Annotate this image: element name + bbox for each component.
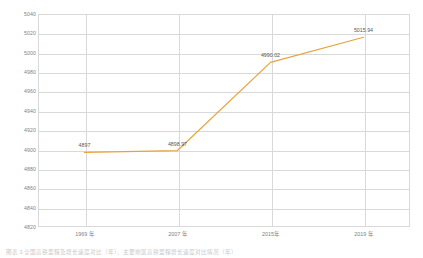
series-layer — [38, 14, 410, 227]
chart-caption: 图表 3 全国高铁里程及增长速度对比（年）、主要地区高铁里程增长速度对比情况（年… — [6, 249, 421, 256]
x-axis-tick-label: 2015年 — [241, 230, 301, 238]
y-axis-tick-label: 5020 — [2, 30, 36, 36]
y-axis-tick-label: 5000 — [2, 50, 36, 56]
y-axis-tick-label: 4980 — [2, 69, 36, 75]
y-axis-tick-label: 4880 — [2, 166, 36, 172]
y-axis-tick-label: 4820 — [2, 224, 36, 230]
x-axis-labels: 1969 年2007 年2015年2019 年 — [38, 230, 410, 242]
y-axis-tick-label: 4860 — [2, 185, 36, 191]
series-line-0 — [85, 37, 364, 152]
line-chart: 5040502050004980496049404920490048804860… — [0, 0, 423, 258]
y-axis-tick-label: 4960 — [2, 88, 36, 94]
data-point-label: 4898.97 — [168, 141, 187, 148]
y-axis-tick-label: 4900 — [2, 147, 36, 153]
x-axis-tick-label: 2019 年 — [334, 230, 394, 238]
y-axis-tick-label: 4920 — [2, 127, 36, 133]
data-point-label: 5015.94 — [354, 27, 373, 34]
y-axis-tick-label: 4940 — [2, 108, 36, 114]
y-axis-tick-label: 5040 — [2, 11, 36, 17]
y-axis-tick-label: 4840 — [2, 205, 36, 211]
x-axis-tick-label: 2007 年 — [148, 230, 208, 238]
y-axis-labels: 5040502050004980496049404920490048804860… — [0, 14, 36, 227]
x-axis-tick-label: 1969 年 — [55, 230, 115, 238]
data-point-label: 4897 — [79, 142, 91, 149]
data-point-label: 4990.02 — [261, 52, 280, 59]
